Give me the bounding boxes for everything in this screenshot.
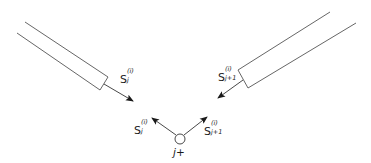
label-superscript: (i): [141, 119, 148, 126]
left-tube-bottom-edge: [17, 33, 100, 90]
label-base: S: [204, 125, 211, 138]
label-superscript: (i): [211, 120, 222, 127]
left-tube-top-edge: [25, 22, 108, 77]
right-tube-bottom-edge: [248, 23, 356, 88]
label-subscript: j+1: [225, 75, 236, 82]
label-script: (i)j+1: [211, 122, 222, 135]
junction-label: j+: [173, 147, 185, 158]
inner-left-vector-arrow-icon: [152, 118, 176, 135]
diagram-canvas: [0, 0, 371, 163]
left-tube-vector-arrow-icon: [104, 84, 133, 101]
label-subscript: j: [141, 128, 148, 135]
junction-node-circle-icon: [175, 134, 185, 144]
right-tube: [238, 12, 356, 88]
right-tube-top-edge: [238, 12, 330, 70]
junction-diagram: S(i)j S(i)j+1 S(i)j S(i)j+1 j+: [0, 0, 371, 163]
label-script: (i)j: [127, 70, 134, 83]
label-script: (i)j+1: [225, 68, 236, 81]
left-tube-label: S(i)j: [120, 70, 134, 86]
right-tube-end-cap: [238, 70, 248, 88]
label-subscript: j: [127, 77, 134, 84]
label-superscript: (i): [225, 66, 236, 73]
label-script: (i)j: [141, 121, 148, 134]
inner-left-label: S(i)j: [134, 121, 148, 137]
left-tube-end-cap: [100, 77, 108, 90]
label-base: S: [120, 73, 127, 86]
label-base: S: [218, 71, 225, 84]
left-tube: [17, 22, 108, 90]
right-tube-label: S(i)j+1: [218, 68, 236, 84]
label-subscript: j+1: [211, 129, 222, 136]
label-base: S: [134, 124, 141, 137]
label-superscript: (i): [127, 68, 134, 75]
inner-right-label: S(i)j+1: [204, 122, 222, 138]
